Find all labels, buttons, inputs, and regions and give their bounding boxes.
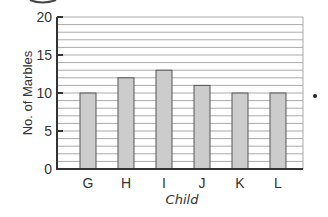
x-tick-label: H bbox=[121, 175, 131, 191]
bar-l bbox=[270, 93, 286, 169]
bar-chart: 05101520 GHIJKL No. of Marbles Child bbox=[0, 0, 328, 217]
bar-g bbox=[80, 93, 96, 169]
bar-j bbox=[194, 85, 210, 169]
x-tick-label: I bbox=[162, 175, 166, 191]
bullet-dot-icon bbox=[313, 94, 317, 98]
x-tick-label: K bbox=[235, 175, 245, 191]
bar-h bbox=[118, 78, 134, 169]
y-tick-label: 20 bbox=[36, 9, 52, 25]
x-tick-labels: GHIJKL bbox=[83, 175, 283, 191]
y-tick-label: 10 bbox=[36, 85, 52, 101]
x-tick-label: L bbox=[274, 175, 282, 191]
y-tick-label: 5 bbox=[44, 123, 52, 139]
bar-i bbox=[156, 70, 172, 169]
y-axis-label: No. of Marbles bbox=[20, 50, 35, 135]
x-tick-label: J bbox=[199, 175, 206, 191]
decorative-arc bbox=[30, 0, 56, 3]
y-tick-labels: 05101520 bbox=[36, 9, 52, 177]
x-axis-label: Child bbox=[166, 192, 200, 207]
y-tick-label: 0 bbox=[44, 161, 52, 177]
bar-k bbox=[232, 93, 248, 169]
y-tick-label: 15 bbox=[36, 47, 52, 63]
x-tick-label: G bbox=[83, 175, 94, 191]
